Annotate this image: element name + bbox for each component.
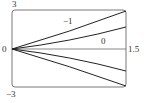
y-bottom-tick-label: −3 [6, 90, 16, 99]
y-mid-tick-label: 0 [2, 45, 7, 54]
curve-c [12, 49, 126, 71]
curve-label-0: 0 [101, 37, 106, 46]
curve-d [12, 49, 126, 86]
y-top-tick-label: 3 [12, 0, 17, 9]
curve-b [12, 27, 126, 49]
curve-label-minus1: −1 [63, 17, 73, 26]
x-right-tick-label: 1.5 [128, 45, 139, 54]
